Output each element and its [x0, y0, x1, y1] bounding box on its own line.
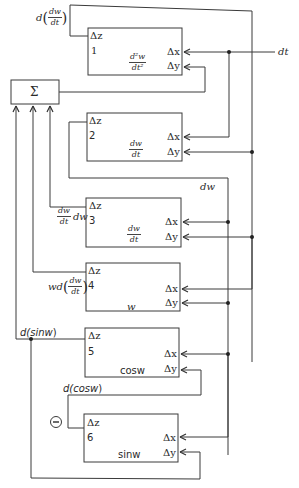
signal-d-cosw: d(cosw) [63, 383, 102, 394]
integrator-4-id: 4 [88, 281, 94, 291]
integrator-5-dy: Δy [164, 364, 177, 374]
dw-signal-label: dw [200, 182, 215, 192]
negate-icon [50, 416, 62, 428]
signal-wd-dw-dt: wd ( dw dt ) [48, 277, 88, 296]
integrator-4-dy: Δy [165, 298, 178, 308]
integrator-6-dy: Δy [163, 448, 176, 458]
integrator-3-dx: Δx [165, 217, 178, 227]
integrator-4-dx: Δx [165, 284, 178, 294]
integrator-1-dx: Δx [167, 47, 180, 57]
dt-input-label: dt [278, 47, 288, 57]
integrator-1-value: d²w dt² [129, 53, 146, 72]
integrator-3-dy: Δy [165, 232, 178, 242]
integrator-2-dy: Δy [167, 147, 180, 157]
summer-label: Σ [30, 86, 38, 98]
integrator-1-id: 1 [91, 46, 97, 56]
integrator-2-value: dw dt [129, 140, 143, 159]
integrator-6-value: sinw [118, 450, 141, 460]
integrator-3-value: dw dt [127, 225, 141, 244]
integrator-4-value: w [127, 302, 136, 312]
signal-dw-dt-dw: dw dt dw [57, 207, 88, 226]
integrator-2-dx: Δx [167, 132, 180, 142]
integrator-5-dx: Δx [164, 349, 177, 359]
signal-d-dw-dt: d ( dw dt ) [36, 8, 67, 27]
integrator-6-id: 6 [87, 433, 93, 443]
integrator-6-dz: Δz [87, 418, 100, 428]
integrator-5-value: cosw [120, 366, 145, 376]
signal-d-sinw: d(sinw) [20, 327, 57, 338]
integrator-3-id: 3 [89, 216, 95, 226]
integrator-1-dy: Δy [167, 61, 180, 71]
integrator-3-dz: Δz [89, 201, 102, 211]
integrator-5-id: 5 [88, 347, 94, 357]
integrator-1-dz: Δz [90, 31, 103, 41]
wiring-diagram [0, 0, 299, 488]
integrator-4-dz: Δz [88, 266, 101, 276]
integrator-2-dz: Δz [89, 116, 102, 126]
integrator-6-dx: Δx [163, 433, 176, 443]
integrator-5-dz: Δz [88, 331, 101, 341]
integrator-2-id: 2 [89, 131, 95, 141]
